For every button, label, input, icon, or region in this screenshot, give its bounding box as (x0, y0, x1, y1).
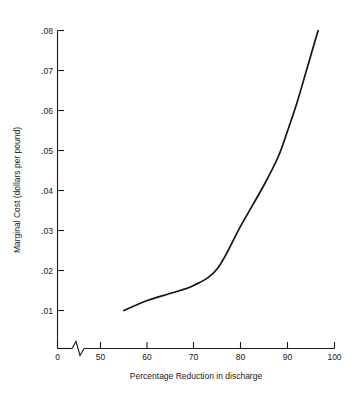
y-tick-label-0.03: .03 (41, 226, 53, 236)
chart-figure: .08 .07 .06 .05 .04 .03 .02 .01 Marginal… (0, 0, 359, 399)
x-tick-label-90: 90 (283, 352, 293, 362)
x-tick-label-0: 0 (55, 352, 60, 362)
x-axis-break-icon (72, 342, 84, 356)
y-tick-label-0.08: .08 (41, 26, 53, 36)
x-axis-group: 0 50 60 70 80 90 100 Percentage Reductio… (55, 342, 342, 382)
x-axis-title: Percentage Reduction in discharge (130, 371, 263, 381)
x-tick-label-100: 100 (327, 352, 341, 362)
x-tick-label-60: 60 (142, 352, 152, 362)
marginal-cost-line-chart: .08 .07 .06 .05 .04 .03 .02 .01 Marginal… (0, 0, 359, 399)
y-tick-label-0.01: .01 (41, 306, 53, 316)
x-tick-label-70: 70 (189, 352, 199, 362)
x-tick-label-50: 50 (96, 352, 106, 362)
y-tick-label-0.05: .05 (41, 146, 53, 156)
y-tick-label-0.07: .07 (41, 66, 53, 76)
y-axis-group: .08 .07 .06 .05 .04 .03 .02 .01 Marginal… (12, 26, 64, 349)
y-tick-label-0.02: .02 (41, 266, 53, 276)
y-tick-label-0.06: .06 (41, 106, 53, 116)
y-tick-label-0.04: .04 (41, 186, 53, 196)
y-axis-title: Marginal Cost (dollars per pound) (12, 127, 22, 253)
marginal-cost-curve (124, 31, 318, 311)
x-tick-label-80: 80 (236, 352, 246, 362)
